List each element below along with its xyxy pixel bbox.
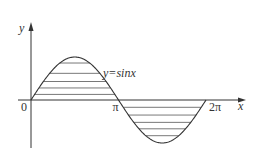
sine-chart: x y 0π2π y=sinx bbox=[0, 0, 262, 163]
x-tick-label: π bbox=[113, 100, 119, 114]
curve-label: y=sinx bbox=[102, 66, 136, 80]
x-axis-label: x bbox=[237, 99, 244, 113]
x-tick-label: 0 bbox=[21, 100, 27, 114]
y-axis-label: y bbox=[18, 21, 25, 35]
y-axis-arrow-icon bbox=[29, 22, 34, 31]
x-tick-label: 2π bbox=[209, 100, 221, 114]
